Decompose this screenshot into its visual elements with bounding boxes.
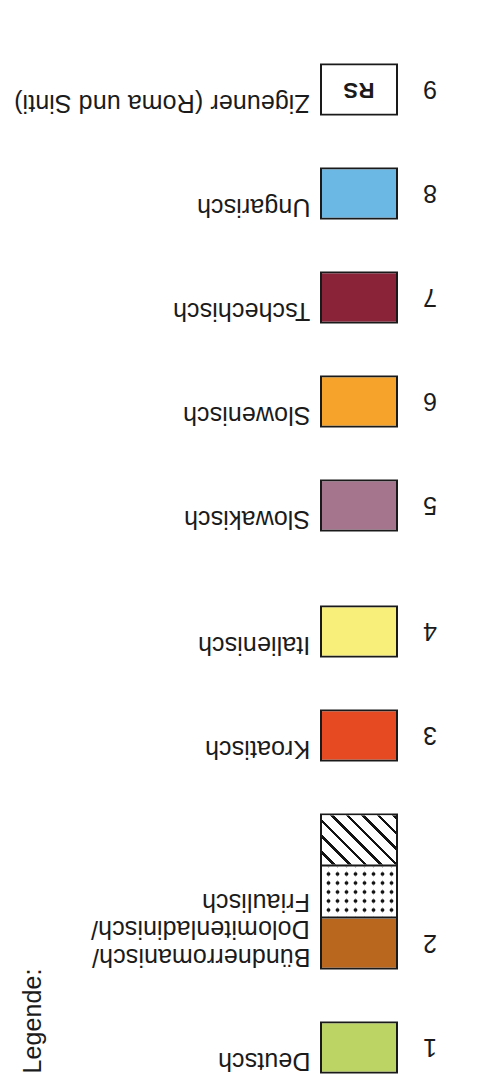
legend-entry[interactable]: Deutsch1 <box>62 1021 462 1073</box>
legend-color-swatch[interactable] <box>320 375 398 427</box>
legend-entry-index: 6 <box>414 375 443 427</box>
legend-entry-label: Kroatisch <box>62 736 310 762</box>
legend-entry[interactable]: Tschechisch7 <box>62 271 462 323</box>
legend-index-value: 5 <box>423 491 437 520</box>
legend-entry-label: Italienisch <box>62 632 310 658</box>
legend-color-swatch[interactable]: RS <box>320 63 398 115</box>
legend-entry-label: Ungarisch <box>62 194 310 220</box>
legend-entry-label: Tschechisch <box>62 298 310 324</box>
swatch-segment-solid <box>322 607 396 655</box>
legend-entry[interactable]: Kroatisch3 <box>62 709 462 761</box>
swatch-segment-solid <box>322 273 396 321</box>
legend-label-line: Friaulisch <box>202 889 310 915</box>
legend-label-line: Slowenisch <box>183 402 310 428</box>
legend-index-value: 9 <box>423 75 437 104</box>
swatch-segment-solid <box>322 377 396 425</box>
swatch-segment-solid <box>322 481 396 529</box>
rotated-legend-stage: Legende: Deutsch1Bündnerromanisch/Dolomi… <box>0 0 480 1091</box>
swatch-segment-hatch <box>322 815 396 866</box>
swatch-segment-dots <box>322 866 396 917</box>
legend-color-swatch[interactable] <box>320 709 398 761</box>
swatch-segment-solid <box>322 1023 396 1071</box>
legend-label-line: Dolomitenladinisch/ <box>91 916 310 942</box>
legend-entry[interactable]: Ungarisch8 <box>62 167 462 219</box>
legend-entry-label: Zigeuner (Roma und Sinti) <box>62 90 310 116</box>
legend-entry-label: Slowakisch <box>62 506 310 532</box>
swatch-segment-solid: RS <box>322 65 396 113</box>
legend-index-value: 2 <box>423 929 437 958</box>
legend-entry[interactable]: Slowakisch5 <box>62 479 462 531</box>
swatch-marker-text: RS <box>322 65 396 113</box>
legend-label-line: Slowakisch <box>184 506 310 532</box>
swatch-segment-solid <box>322 918 396 967</box>
legend-entry-label: Slowenisch <box>62 402 310 428</box>
legend-color-swatch[interactable] <box>320 271 398 323</box>
legend-label-line: Kroatisch <box>205 736 310 762</box>
legend-entry-index: 5 <box>414 479 443 531</box>
legend-index-value: 8 <box>423 179 437 208</box>
legend-entry[interactable]: Slowenisch6 <box>62 375 462 427</box>
legend-color-swatch[interactable] <box>320 605 398 657</box>
legend-entry-label: Deutsch <box>62 1048 310 1074</box>
legend-entry-index: 9 <box>414 63 443 115</box>
legend-index-value: 6 <box>423 387 437 416</box>
legend-label-line: Tschechisch <box>173 298 310 324</box>
swatch-segment-solid <box>322 169 396 217</box>
legend-color-swatch[interactable] <box>320 813 398 969</box>
legend-label-line: Bündnerromanisch/ <box>92 944 311 970</box>
legend-index-value: 7 <box>423 283 437 312</box>
legend-board: Legende: Deutsch1Bündnerromanisch/Dolomi… <box>0 0 480 1091</box>
legend-entry[interactable]: Italienisch4 <box>62 605 462 657</box>
legend-color-swatch[interactable] <box>320 479 398 531</box>
legend-entry-index: 1 <box>414 1021 443 1073</box>
legend-label-line: Ungarisch <box>197 194 310 220</box>
legend-entry-index: 3 <box>414 709 443 761</box>
legend-label-line: Deutsch <box>218 1048 310 1074</box>
legend-color-swatch[interactable] <box>320 167 398 219</box>
legend-label-line: Italienisch <box>198 632 310 658</box>
legend-color-swatch[interactable] <box>320 1021 398 1073</box>
legend-entry-index: 2 <box>414 917 443 969</box>
legend-entry-index: 7 <box>414 271 443 323</box>
legend-index-value: 4 <box>423 617 437 646</box>
legend-label-line: Zigeuner (Roma und Sinti) <box>14 90 310 116</box>
legend-entry-label: Bündnerromanisch/Dolomitenladinisch/Fria… <box>62 889 310 970</box>
legend-index-value: 1 <box>423 1033 437 1062</box>
legend-entry-index: 4 <box>414 605 443 657</box>
legend-entry[interactable]: Bündnerromanisch/Dolomitenladinisch/Fria… <box>62 813 462 969</box>
legend-index-value: 3 <box>423 721 437 750</box>
swatch-segment-solid <box>322 711 396 759</box>
legend-entry-index: 8 <box>414 167 443 219</box>
legend-title: Legende: <box>18 968 47 1073</box>
legend-entry[interactable]: Zigeuner (Roma und Sinti)RS9 <box>62 63 462 115</box>
